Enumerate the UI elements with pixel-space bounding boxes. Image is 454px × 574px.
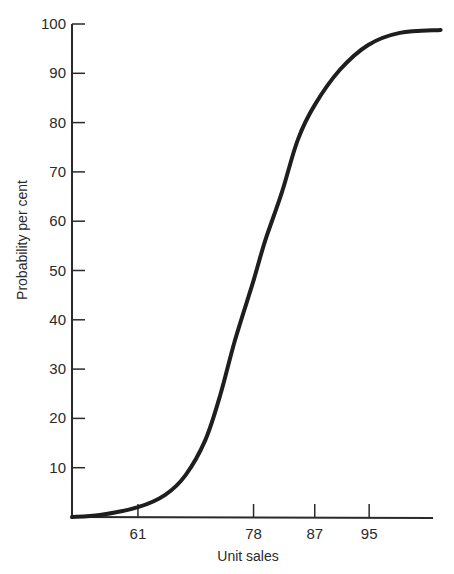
y-tick-label: 40 — [49, 311, 66, 328]
s-curve-chart: 102030405060708090100 61788795 Probabili… — [0, 0, 454, 574]
y-tick-label: 20 — [49, 409, 66, 426]
y-tick-label: 60 — [49, 212, 66, 229]
x-tick-label: 95 — [361, 525, 378, 542]
y-tick-label: 10 — [49, 459, 66, 476]
y-tick-label: 90 — [49, 64, 66, 81]
x-tick-label: 61 — [130, 525, 147, 542]
y-tick-label: 70 — [49, 163, 66, 180]
y-tick-label: 100 — [41, 15, 66, 32]
y-tick-label: 30 — [49, 360, 66, 377]
probability-curve — [72, 30, 441, 517]
x-tick-label: 78 — [245, 525, 262, 542]
y-tick-label: 80 — [49, 114, 66, 131]
x-axis-title: Unit sales — [217, 548, 278, 564]
x-tick-label: 87 — [306, 525, 323, 542]
x-axis-line — [72, 517, 433, 518]
y-tick-label: 50 — [49, 262, 66, 279]
y-axis: 102030405060708090100 — [41, 15, 85, 517]
y-axis-title: Probability per cent — [14, 180, 30, 300]
